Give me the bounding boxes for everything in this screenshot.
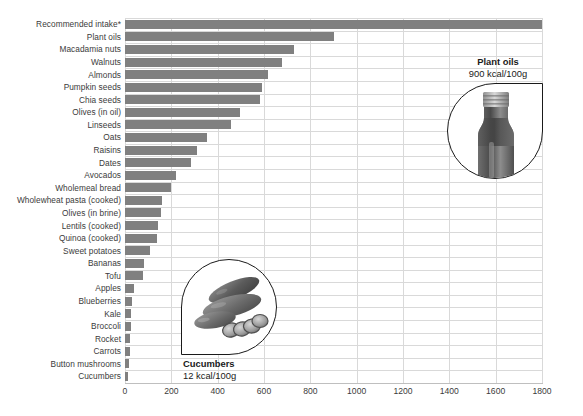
callout-plant-oils-value: 900 kcal/100g bbox=[452, 68, 544, 79]
calorie-density-bar-chart: Recommended intake*Plant oilsMacadamia n… bbox=[0, 0, 583, 416]
chart-row: Recommended intake* bbox=[0, 18, 583, 31]
bar bbox=[125, 171, 176, 180]
x-tick-label: 1400 bbox=[440, 386, 459, 396]
bar bbox=[125, 45, 294, 54]
category-label: Lentils (cooked) bbox=[62, 221, 121, 231]
callout-cucumbers-title: Cucumbers bbox=[183, 358, 303, 369]
bar bbox=[125, 246, 150, 255]
x-tick-label: 200 bbox=[164, 386, 178, 396]
chart-row: Blueberries bbox=[0, 295, 583, 308]
bar bbox=[125, 284, 134, 293]
bar bbox=[125, 133, 207, 142]
bar bbox=[125, 120, 231, 129]
category-label: Apples bbox=[95, 283, 121, 293]
category-label: Chia seeds bbox=[79, 95, 121, 105]
bar bbox=[125, 271, 143, 280]
category-label: Oats bbox=[103, 132, 121, 142]
x-tick-label: 400 bbox=[210, 386, 224, 396]
category-label: Plant oils bbox=[87, 32, 121, 42]
bar bbox=[125, 58, 282, 67]
category-label: Recommended intake* bbox=[36, 19, 121, 29]
category-label: Linseeds bbox=[87, 120, 121, 130]
x-tick-label: 1000 bbox=[347, 386, 366, 396]
category-label: Rocket bbox=[95, 334, 121, 344]
bar bbox=[125, 347, 130, 356]
chart-row: Rocket bbox=[0, 332, 583, 345]
bar bbox=[125, 108, 240, 117]
x-axis-tick-labels: 020040060080010001200140016001800 bbox=[0, 386, 583, 406]
callout-plant-oils-bubble bbox=[447, 83, 543, 179]
category-label: Sweet potatoes bbox=[63, 246, 121, 256]
callout-cucumbers-value: 12 kcal/100g bbox=[183, 370, 303, 381]
bar bbox=[125, 146, 197, 155]
category-label: Macadamia nuts bbox=[59, 44, 121, 54]
category-label: Dates bbox=[99, 158, 121, 168]
bar bbox=[125, 196, 162, 205]
chart-row: Olives (in brine) bbox=[0, 207, 583, 220]
bar bbox=[125, 95, 260, 104]
category-label: Button mushrooms bbox=[51, 359, 121, 369]
oil-bottle-icon bbox=[448, 84, 542, 179]
bar bbox=[125, 234, 157, 243]
category-label: Quinoa (cooked) bbox=[59, 233, 121, 243]
category-label: Tofu bbox=[105, 271, 121, 281]
bar bbox=[125, 322, 131, 331]
chart-row: Wholemeal bread bbox=[0, 182, 583, 195]
callout-cucumbers-text: Cucumbers 12 kcal/100g bbox=[183, 358, 303, 381]
category-label: Olives (in brine) bbox=[62, 208, 121, 218]
chart-row: Macadamia nuts bbox=[0, 43, 583, 56]
x-tick-label: 1800 bbox=[532, 386, 551, 396]
chart-row: Quinoa (cooked) bbox=[0, 232, 583, 245]
category-label: Kale bbox=[104, 309, 121, 319]
bar bbox=[125, 32, 334, 41]
category-label: Wholewheat pasta (cooked) bbox=[17, 195, 121, 205]
x-tick-label: 800 bbox=[303, 386, 317, 396]
callout-cucumbers-bubble bbox=[181, 259, 277, 355]
chart-row: Sweet potatoes bbox=[0, 244, 583, 257]
chart-row: Apples bbox=[0, 282, 583, 295]
category-label: Blueberries bbox=[78, 296, 121, 306]
bar bbox=[125, 183, 171, 192]
category-label: Broccoli bbox=[91, 321, 121, 331]
x-tick-label: 1600 bbox=[486, 386, 505, 396]
category-label: Wholemeal bread bbox=[55, 183, 121, 193]
category-label: Olives (in oil) bbox=[72, 107, 121, 117]
category-label: Avocados bbox=[84, 170, 121, 180]
category-label: Walnuts bbox=[91, 57, 121, 67]
bar bbox=[125, 359, 129, 368]
x-axis-line bbox=[125, 383, 543, 384]
chart-row: Tofu bbox=[0, 270, 583, 283]
bar bbox=[125, 70, 268, 79]
bar bbox=[125, 297, 132, 306]
bar bbox=[125, 20, 542, 29]
chart-row: Bananas bbox=[0, 257, 583, 270]
chart-row: Carrots bbox=[0, 345, 583, 358]
chart-row: Plant oils bbox=[0, 31, 583, 44]
bar bbox=[125, 208, 161, 217]
category-label: Raisins bbox=[93, 145, 121, 155]
bar bbox=[125, 309, 131, 318]
chart-row: Kale bbox=[0, 307, 583, 320]
x-tick-label: 600 bbox=[257, 386, 271, 396]
bar bbox=[125, 158, 191, 167]
x-tick-label: 0 bbox=[123, 386, 128, 396]
bar bbox=[125, 221, 158, 230]
category-label: Bananas bbox=[88, 258, 121, 268]
bar bbox=[125, 334, 130, 343]
callout-plant-oils-title: Plant oils bbox=[452, 56, 544, 67]
callout-plant-oils-text: Plant oils 900 kcal/100g bbox=[452, 56, 544, 79]
x-tick-label: 1200 bbox=[393, 386, 412, 396]
category-label: Carrots bbox=[93, 346, 121, 356]
chart-row: Lentils (cooked) bbox=[0, 219, 583, 232]
chart-row: Broccoli bbox=[0, 320, 583, 333]
chart-row: Wholewheat pasta (cooked) bbox=[0, 194, 583, 207]
category-label: Cucumbers bbox=[78, 371, 121, 381]
bar bbox=[125, 259, 144, 268]
bar bbox=[125, 372, 128, 381]
category-label: Almonds bbox=[88, 70, 121, 80]
cucumbers-icon bbox=[182, 260, 276, 355]
bar bbox=[125, 83, 262, 92]
category-label: Pumpkin seeds bbox=[64, 82, 121, 92]
